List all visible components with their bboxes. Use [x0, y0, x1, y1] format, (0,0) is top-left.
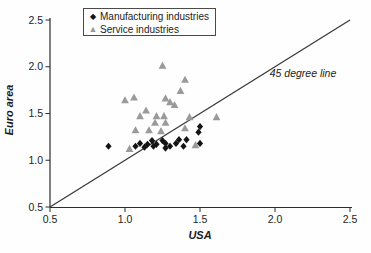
point-diamond [183, 136, 189, 143]
x-tick-label: 2.5 [343, 213, 358, 225]
point-triangle [181, 76, 189, 83]
diamond-marker-icon: ◆ [88, 10, 98, 23]
point-triangle [153, 112, 161, 119]
point-triangle [159, 62, 167, 69]
point-diamond [195, 129, 201, 136]
reference-line-label: 45 degree line [258, 67, 348, 79]
point-triangle [181, 124, 189, 131]
point-triangle [186, 113, 194, 120]
y-tick-label: 2.5 [28, 14, 43, 26]
scatter-plot: 0.51.01.52.02.50.51.01.52.02.5 [0, 0, 371, 253]
figure: 0.51.01.52.02.50.51.01.52.02.5 ◆ Manufac… [0, 0, 371, 253]
legend-label-manufacturing: Manufacturing industries [100, 10, 209, 23]
point-triangle [142, 106, 150, 113]
45-degree-line [50, 20, 350, 207]
point-diamond [105, 143, 111, 150]
point-triangle [132, 126, 140, 133]
x-tick-label: 1.5 [193, 213, 208, 225]
legend-item-manufacturing: ◆ Manufacturing industries [88, 10, 215, 23]
legend: ◆ Manufacturing industries ▲ Service ind… [83, 8, 216, 36]
y-tick-label: 1.0 [28, 154, 43, 166]
y-tick-label: 0.5 [28, 201, 43, 213]
x-axis-title: USA [155, 229, 245, 241]
point-triangle [213, 113, 221, 120]
point-diamond [149, 137, 155, 144]
point-triangle [145, 126, 153, 133]
y-axis-title: Euro area [3, 65, 15, 155]
x-tick-label: 0.5 [43, 213, 58, 225]
point-triangle [130, 93, 138, 100]
point-triangle [160, 112, 168, 119]
point-triangle [177, 87, 185, 94]
point-triangle [126, 145, 134, 152]
point-diamond [180, 143, 186, 150]
y-tick-label: 1.5 [28, 107, 43, 119]
triangle-marker-icon: ▲ [88, 23, 98, 36]
point-triangle [162, 119, 170, 126]
point-triangle [151, 119, 159, 126]
x-tick-label: 2.0 [268, 213, 283, 225]
legend-label-service: Service industries [100, 23, 179, 36]
legend-item-service: ▲ Service industries [88, 23, 215, 36]
point-triangle [121, 96, 129, 103]
point-triangle [162, 94, 170, 101]
point-diamond [197, 123, 203, 130]
x-tick-label: 1.0 [118, 213, 133, 225]
point-triangle [157, 127, 165, 134]
y-tick-label: 2.0 [28, 60, 43, 72]
